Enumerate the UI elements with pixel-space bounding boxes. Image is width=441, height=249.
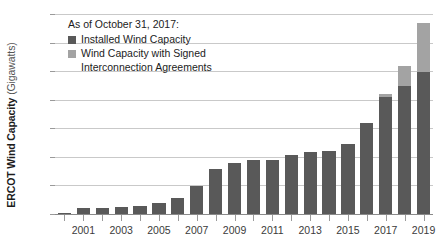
x-axis-tick-mark <box>272 215 273 221</box>
bar-segment-signed <box>379 94 392 97</box>
x-axis-tick-label: 2013 <box>298 224 321 236</box>
y-axis-tick-mark <box>50 71 55 72</box>
bar-group <box>322 151 335 214</box>
y-axis-tick-mark <box>50 128 55 129</box>
bar-group <box>266 160 279 214</box>
bar-group <box>285 155 298 214</box>
bar-segment-installed <box>171 198 184 214</box>
bar-group <box>417 23 430 214</box>
legend-label-signed: Wind Capacity with Signed Interconnectio… <box>81 47 212 74</box>
legend-swatch-signed <box>68 50 76 58</box>
x-axis-tick-label: 2017 <box>374 224 397 236</box>
bar-segment-installed <box>417 72 430 214</box>
bar-group <box>247 160 260 214</box>
bar-group <box>115 207 128 214</box>
bar-segment-installed <box>304 152 317 214</box>
bar-segment-installed <box>115 207 128 214</box>
x-axis-tick-label: 2005 <box>147 224 170 236</box>
bar-segment-installed <box>379 97 392 214</box>
x-axis-tick-mark <box>367 215 368 221</box>
y-axis-tick-mark <box>50 43 55 44</box>
bar-segment-installed <box>228 163 241 214</box>
bar-group <box>190 186 203 214</box>
x-axis-tick-mark <box>348 215 349 221</box>
y-axis-title-main: ERCOT Wind Capacity <box>5 97 17 207</box>
y-axis-tick-mark <box>50 157 55 158</box>
x-axis-tick-label: 2019 <box>412 224 435 236</box>
x-axis-tick-mark <box>424 215 425 221</box>
bar-segment-installed <box>398 86 411 214</box>
bar-segment-installed <box>152 203 165 214</box>
y-axis-tick-mark <box>50 185 55 186</box>
y-axis-tick-mark <box>50 14 55 15</box>
gridline <box>55 14 433 15</box>
x-axis-tick-mark <box>329 215 330 221</box>
x-axis-tick-label: 2009 <box>223 224 246 236</box>
bar-group <box>360 123 373 214</box>
x-axis-tick-mark <box>291 215 292 221</box>
bar-segment-installed <box>247 160 260 214</box>
bar-segment-installed <box>209 169 222 214</box>
gridline <box>55 100 433 101</box>
gridline <box>55 128 433 129</box>
legend-title: As of October 31, 2017: <box>68 18 212 32</box>
x-axis-tick-mark <box>310 215 311 221</box>
x-axis-tick-mark <box>405 215 406 221</box>
x-axis-tick-mark <box>253 215 254 221</box>
legend-item-installed: Installed Wind Capacity <box>68 33 212 47</box>
bar-group <box>379 94 392 214</box>
bar-group <box>171 198 184 214</box>
x-axis-tick-label: 2011 <box>261 224 284 236</box>
bar-segment-installed <box>285 155 298 214</box>
bar-group <box>228 163 241 214</box>
x-axis-tick-label: 2007 <box>185 224 208 236</box>
wind-capacity-bar-chart: ERCOT Wind Capacity (Gigawatts) 05101520… <box>0 0 441 249</box>
bar-group <box>398 66 411 214</box>
bar-segment-installed <box>322 151 335 214</box>
y-axis-tick-mark <box>50 100 55 101</box>
bar-segment-installed <box>341 144 354 214</box>
x-axis-tick-mark <box>140 215 141 221</box>
y-axis-tick-mark <box>50 214 55 215</box>
gridline <box>55 157 433 158</box>
x-axis-tick-label: 2015 <box>336 224 359 236</box>
bar-segment-installed <box>266 160 279 214</box>
chart-legend: As of October 31, 2017: Installed Wind C… <box>68 18 212 74</box>
x-axis-tick-mark <box>64 215 65 221</box>
bar-group <box>304 152 317 214</box>
x-axis-tick-mark <box>216 215 217 221</box>
x-axis-tick-mark <box>197 215 198 221</box>
x-axis-line <box>51 214 433 215</box>
x-axis-tick-label: 2003 <box>109 224 132 236</box>
y-axis-title-unit: (Gigawatts) <box>5 42 17 97</box>
y-axis-title: ERCOT Wind Capacity (Gigawatts) <box>0 0 22 249</box>
legend-label-installed: Installed Wind Capacity <box>81 33 191 47</box>
legend-swatch-installed <box>68 36 76 44</box>
x-axis-tick-mark <box>159 215 160 221</box>
bar-group <box>209 169 222 214</box>
x-axis-tick-mark <box>102 215 103 221</box>
bar-group <box>133 206 146 214</box>
bar-segment-signed <box>398 66 411 86</box>
gridline <box>55 185 433 186</box>
bar-group <box>341 144 354 214</box>
bar-segment-installed <box>190 186 203 214</box>
legend-item-signed: Wind Capacity with Signed Interconnectio… <box>68 47 212 74</box>
x-axis-tick-mark <box>386 215 387 221</box>
x-axis-tick-mark <box>178 215 179 221</box>
x-axis-tick-mark <box>121 215 122 221</box>
x-axis-tick-mark <box>235 215 236 221</box>
bar-segment-signed <box>417 23 430 73</box>
x-axis-tick-label: 2001 <box>72 224 95 236</box>
bar-segment-installed <box>133 206 146 214</box>
bar-segment-installed <box>360 123 373 214</box>
x-axis-tick-mark <box>83 215 84 221</box>
bar-group <box>152 203 165 214</box>
